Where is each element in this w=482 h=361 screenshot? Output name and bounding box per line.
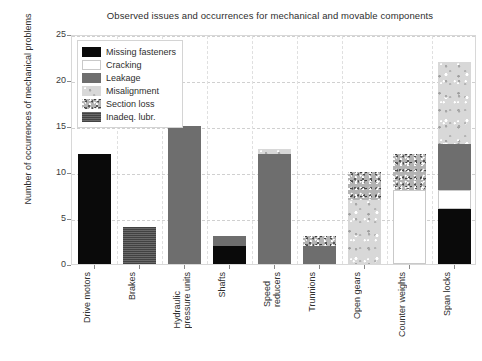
- bar-group[interactable]: [438, 35, 471, 264]
- gridline-vertical: [297, 36, 298, 264]
- bar-segment-section_loss[interactable]: [393, 154, 426, 191]
- bar-segment-leakage[interactable]: [438, 144, 471, 190]
- y-tick-label: 20: [40, 75, 66, 85]
- x-tick-mark: [94, 265, 95, 269]
- legend-label: Misalignment: [106, 86, 159, 96]
- y-axis-label: Number of occurrences of mechanical prob…: [23, 0, 33, 224]
- x-tick-label: Trunnions: [307, 272, 321, 312]
- legend-item[interactable]: Missing fasteners: [82, 45, 177, 58]
- bar-segment-misalignment[interactable]: [348, 200, 381, 264]
- legend-label: Section loss: [106, 99, 155, 109]
- gridline-vertical: [342, 36, 343, 264]
- legend-item[interactable]: Inadeq. lubr.: [82, 110, 177, 123]
- legend-label: Leakage: [106, 73, 141, 83]
- legend-label: Missing fasteners: [106, 47, 176, 57]
- legend-swatch-leakage: [82, 73, 101, 83]
- y-tick-mark: [67, 219, 71, 220]
- chart-legend: Missing fastenersCrackingLeakageMisalign…: [77, 40, 183, 128]
- legend-item[interactable]: Misalignment: [82, 84, 177, 97]
- bar-segment-misalignment[interactable]: [438, 62, 471, 145]
- bar-group[interactable]: [303, 35, 336, 264]
- bar-segment-section_loss[interactable]: [348, 172, 381, 200]
- bar-group[interactable]: [393, 35, 426, 264]
- bar-segment-leakage[interactable]: [303, 246, 336, 264]
- legend-item[interactable]: Section loss: [82, 97, 177, 110]
- legend-swatch-missing_fasteners: [82, 47, 101, 57]
- gridline-vertical: [432, 36, 433, 264]
- legend-label: Cracking: [106, 60, 142, 70]
- x-tick-mark: [229, 265, 230, 269]
- legend-item[interactable]: Cracking: [82, 58, 177, 71]
- chart-title: Observed issues and occurrences for mech…: [60, 10, 480, 21]
- bar-segment-leakage[interactable]: [168, 126, 201, 264]
- bar-group[interactable]: [348, 35, 381, 264]
- gridline-vertical: [387, 36, 388, 264]
- chart-figure: Observed issues and occurrences for mech…: [0, 0, 482, 361]
- y-tick-mark: [67, 81, 71, 82]
- x-tick-mark: [184, 265, 185, 269]
- x-tick-label: Speed reducers: [262, 272, 276, 307]
- bar-segment-section_loss[interactable]: [303, 236, 336, 245]
- y-tick-label: 25: [40, 29, 66, 39]
- bar-segment-missing_fasteners[interactable]: [78, 154, 111, 264]
- x-tick-label: Span locks: [442, 272, 456, 316]
- bar-segment-inadeq_lubr[interactable]: [123, 227, 156, 264]
- y-tick-label: 10: [40, 167, 66, 177]
- legend-swatch-section_loss: [82, 99, 101, 109]
- y-tick-mark: [67, 265, 71, 266]
- gridline-vertical: [207, 36, 208, 264]
- x-tick-mark: [364, 265, 365, 269]
- bar-segment-missing_fasteners[interactable]: [438, 209, 471, 264]
- x-tick-mark: [454, 265, 455, 269]
- x-tick-mark: [319, 265, 320, 269]
- y-tick-label: 0: [40, 259, 66, 269]
- x-tick-label: Counter weights: [397, 272, 411, 337]
- x-tick-mark: [139, 265, 140, 269]
- legend-swatch-misalignment: [82, 86, 101, 96]
- x-tick-mark: [274, 265, 275, 269]
- bar-group[interactable]: [258, 35, 291, 264]
- x-tick-label: Hydraulic pressure units: [172, 272, 186, 329]
- bar-segment-leakage[interactable]: [213, 236, 246, 245]
- gridline-vertical: [252, 36, 253, 264]
- x-tick-mark: [409, 265, 410, 269]
- bar-segment-misalignment[interactable]: [258, 149, 291, 154]
- bar-group[interactable]: [213, 35, 246, 264]
- y-tick-label: 5: [40, 213, 66, 223]
- y-tick-mark: [67, 173, 71, 174]
- x-tick-label: Drive motors: [82, 272, 96, 323]
- legend-item[interactable]: Leakage: [82, 71, 177, 84]
- legend-swatch-inadeq_lubr: [82, 112, 101, 122]
- x-tick-label: Open gears: [352, 272, 366, 319]
- bar-segment-cracking[interactable]: [438, 190, 471, 208]
- x-tick-label: Shafts: [217, 272, 231, 298]
- bar-segment-cracking[interactable]: [393, 190, 426, 264]
- bar-segment-leakage[interactable]: [258, 154, 291, 264]
- legend-label: Inadeq. lubr.: [106, 112, 156, 122]
- y-tick-mark: [67, 35, 71, 36]
- x-tick-label: Brakes: [127, 272, 141, 300]
- y-tick-mark: [67, 127, 71, 128]
- legend-swatch-cracking: [82, 60, 101, 70]
- y-tick-label: 15: [40, 121, 66, 131]
- bar-segment-missing_fasteners[interactable]: [213, 246, 246, 264]
